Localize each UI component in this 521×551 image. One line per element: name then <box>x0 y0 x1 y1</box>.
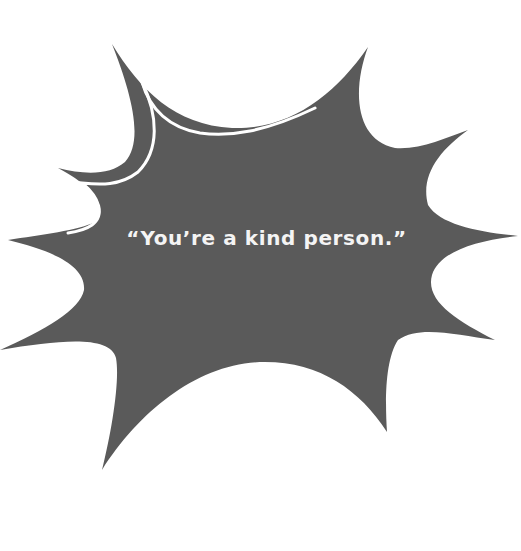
starburst-card: “You’re a kind person.” <box>0 0 521 551</box>
starburst-bubble-icon <box>0 0 521 551</box>
quote-text: “You’re a kind person.” <box>0 226 521 250</box>
